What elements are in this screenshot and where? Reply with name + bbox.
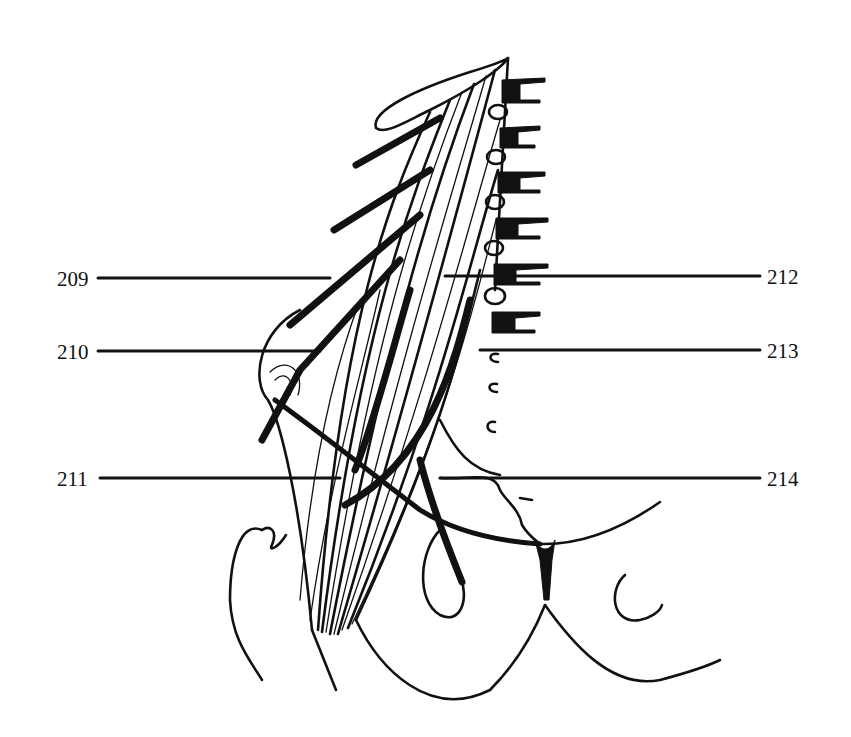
label-213: 213 [767,341,799,362]
label-211: 211 [57,469,88,490]
label-214: 214 [767,469,799,490]
acetabulum-arc [615,575,662,620]
pubic-symphysis [535,540,555,600]
psoas-fibers [300,70,500,634]
anatomy-figure: 209 210 211 212 213 214 [0,0,851,737]
label-212: 212 [767,267,799,288]
label-209: 209 [57,269,89,290]
sacral-foramina [488,354,499,432]
drawing [0,0,851,737]
label-210: 210 [57,342,89,363]
iliacus-outline [259,310,312,630]
